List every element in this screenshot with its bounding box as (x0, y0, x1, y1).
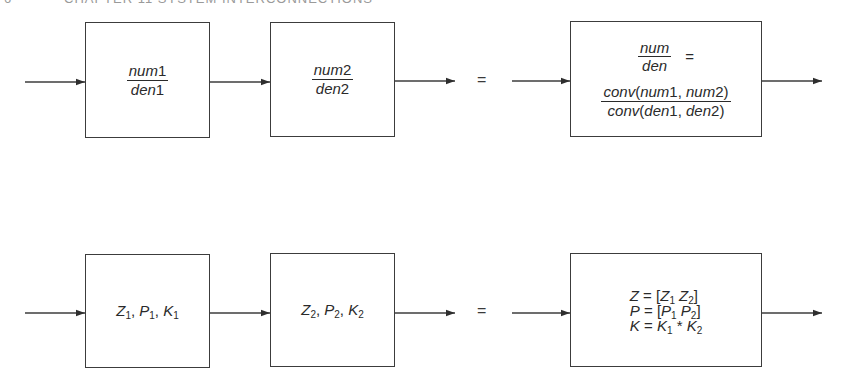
top-equivalent-block: num den = conv(num1, num2) conv(den1, de… (570, 21, 762, 137)
numerator-digit: 1 (158, 62, 166, 79)
zpk-label-2: Z2, P2, K2 (301, 302, 364, 318)
gain-equation: K = K1 * K2 (630, 318, 702, 333)
lhs-denominator: den (640, 57, 669, 74)
lhs-numerator: num (638, 40, 671, 58)
top-block-2: num2 den2 (270, 22, 395, 137)
num-den-fraction: num den (638, 40, 671, 75)
zeros-equation: Z = [Z1 Z2] (630, 288, 698, 303)
zpk-label-1: Z1, P1, K1 (116, 303, 179, 319)
denominator-digit: 1 (156, 81, 164, 98)
denominator-digit: 2 (341, 80, 349, 97)
poles-equation: P = [P1 P2] (630, 303, 701, 318)
transfer-fraction-2: num2 den2 (312, 62, 354, 97)
equivalent-zpk: Z = [Z1 Z2] P = [P1 P2] K = K1 * K2 (630, 288, 702, 333)
top-equals-sign: = (477, 71, 486, 89)
bottom-block-2: Z2, P2, K2 (270, 253, 395, 367)
bottom-block-1: Z1, P1, K1 (85, 254, 210, 368)
lhs-equation: num den = (638, 40, 694, 75)
transfer-fraction-1: num1 den1 (127, 63, 169, 98)
bottom-equivalent-block: Z = [Z1 Z2] P = [P1 P2] K = K1 * K2 (570, 253, 762, 367)
bottom-equals-sign: = (477, 302, 486, 320)
denominator-var: den (131, 81, 156, 98)
equivalent-transfer-function: num den = conv(num1, num2) conv(den1, de… (601, 40, 730, 119)
conv-fraction: conv(num1, num2) conv(den1, den2) (601, 84, 730, 119)
top-block-1: num1 den1 (85, 22, 210, 138)
conv-denominator: conv(den1, den2) (606, 102, 727, 119)
conv-numerator: conv(num1, num2) (601, 84, 730, 102)
numerator-digit: 2 (343, 61, 351, 78)
lhs-equals: = (685, 49, 694, 65)
numerator-var: num (129, 62, 158, 79)
numerator-var: num (314, 61, 343, 78)
denominator-var: den (316, 80, 341, 97)
